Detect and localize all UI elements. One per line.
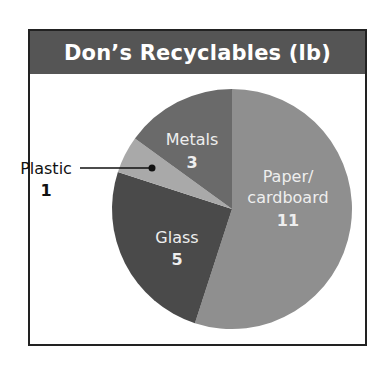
slice-value-paper: 11 [277, 211, 299, 230]
slice-label-glass: Glass [155, 228, 198, 247]
slice-label-paper: Paper/ [263, 167, 314, 186]
pie-chart: Paper/ cardboard 11 Glass 5 Plastic 1 Me… [0, 0, 389, 366]
slice-label-metals: Metals [166, 130, 219, 149]
slice-value-plastic: 1 [40, 181, 51, 200]
slice-label-paper-2: cardboard [247, 188, 328, 207]
slice-label-plastic: Plastic [20, 159, 72, 178]
slice-value-glass: 5 [171, 250, 182, 269]
slice-value-metals: 3 [186, 153, 197, 172]
plastic-leader-dot [149, 165, 156, 172]
